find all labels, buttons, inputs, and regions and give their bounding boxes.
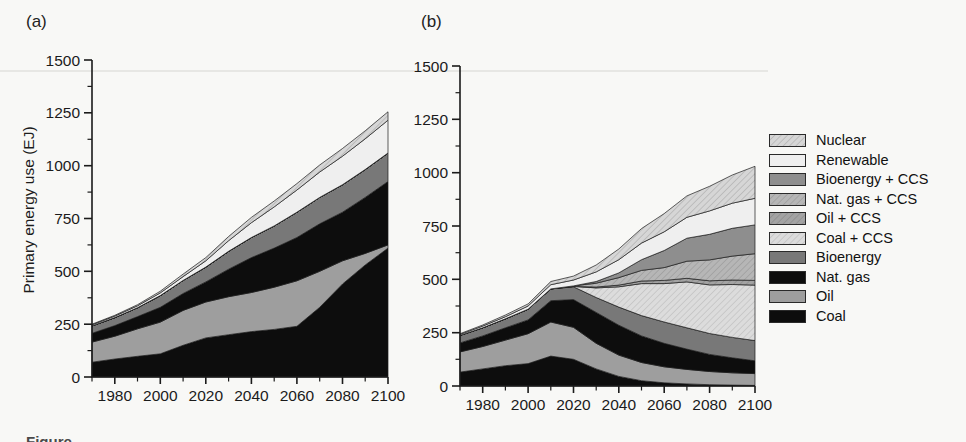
- y-tick-label: 1250: [414, 111, 449, 128]
- y-tick-label: 1500: [46, 52, 81, 69]
- y-tick-label: 1000: [414, 164, 449, 181]
- x-tick-label: 2060: [647, 396, 682, 413]
- y-tick-label: 250: [54, 316, 80, 333]
- legend-swatch-natgas: [769, 271, 806, 284]
- y-tick-label: 750: [54, 210, 80, 227]
- y-tick-label: 1250: [46, 104, 81, 121]
- legend-label: Bioenergy + CCS: [816, 173, 928, 186]
- legend-item-oil_ccs: Oil + CCS: [769, 212, 928, 225]
- legend-item-coal: Coal: [769, 310, 928, 323]
- legend-label: Nat. gas: [816, 271, 870, 284]
- legend-item-bioenergy_ccs: Bioenergy + CCS: [769, 173, 928, 186]
- legend-item-coal_ccs: Coal + CCS: [769, 232, 928, 245]
- legend-label: Bioenergy: [816, 251, 881, 264]
- legend-item-natgas: Nat. gas: [769, 271, 928, 284]
- x-tick-label: 1980: [98, 387, 133, 404]
- legend-swatch-bioenergy_ccs: [769, 173, 806, 186]
- legend-swatch-oil: [769, 290, 806, 303]
- x-tick-label: 2000: [143, 387, 178, 404]
- legend-label: Renewable: [816, 154, 889, 167]
- legend-item-natgas_ccs: Nat. gas + CCS: [769, 193, 928, 206]
- legend-swatch-nuclear: [769, 134, 806, 147]
- legend-item-nuclear: Nuclear: [769, 134, 928, 147]
- legend-label: Nuclear: [816, 134, 866, 147]
- x-tick-label: 2020: [189, 387, 224, 404]
- y-tick-label: 1500: [414, 58, 449, 75]
- chart-panel-b: 0250500750100012501500198020002020204020…: [404, 34, 774, 438]
- x-tick-label: 2040: [234, 387, 269, 404]
- legend-label: Coal: [816, 310, 846, 323]
- legend-swatch-bioenergy: [769, 251, 806, 264]
- x-tick-label: 2060: [280, 387, 315, 404]
- legend-label: Nat. gas + CCS: [816, 193, 917, 206]
- legend: NuclearRenewableBioenergy + CCSNat. gas …: [769, 134, 928, 329]
- y-tick-label: 1000: [46, 157, 81, 174]
- caption-partial: Figure: [26, 433, 446, 442]
- x-tick-label: 1980: [465, 396, 500, 413]
- y-tick-label: 250: [422, 324, 448, 341]
- legend-swatch-coal: [769, 310, 806, 323]
- x-tick-label: 2100: [738, 396, 773, 413]
- x-tick-label: 2080: [692, 396, 727, 413]
- legend-item-oil: Oil: [769, 290, 928, 303]
- y-tick-label: 0: [71, 369, 80, 386]
- legend-label: Coal + CCS: [816, 232, 893, 245]
- legend-label: Oil: [816, 290, 834, 303]
- y-tick-label: 750: [422, 218, 448, 235]
- legend-swatch-natgas_ccs: [769, 193, 806, 206]
- legend-swatch-coal_ccs: [769, 232, 806, 245]
- figure: (a) (b) Primary energy use (EJ) 02505007…: [0, 0, 966, 442]
- x-tick-label: 2080: [325, 387, 360, 404]
- y-tick-label: 0: [439, 378, 448, 395]
- panel-a-label: (a): [26, 12, 47, 32]
- legend-swatch-oil_ccs: [769, 212, 806, 225]
- legend-item-renewable: Renewable: [769, 154, 928, 167]
- panel-b-label: (b): [421, 12, 442, 32]
- y-tick-label: 500: [54, 263, 80, 280]
- x-tick-label: 2000: [511, 396, 546, 413]
- y-tick-label: 500: [422, 271, 448, 288]
- legend-swatch-renewable: [769, 154, 806, 167]
- legend-item-bioenergy: Bioenergy: [769, 251, 928, 264]
- x-tick-label: 2040: [602, 396, 637, 413]
- x-tick-label: 2100: [371, 387, 406, 404]
- chart-panel-a: 0250500750100012501500198020002020204020…: [36, 34, 406, 434]
- x-tick-label: 2020: [556, 396, 591, 413]
- legend-label: Oil + CCS: [816, 212, 881, 225]
